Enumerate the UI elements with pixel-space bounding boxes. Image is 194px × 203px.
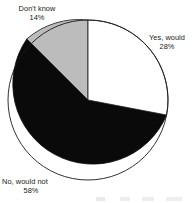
- pie-label-dont-know-percent: 14%: [6, 13, 68, 22]
- pie-label-dont-know-category: Don't know: [6, 4, 68, 13]
- pie-label-no-would-not: No, would not 58%: [2, 177, 80, 196]
- pie-label-dont-know: Don't know 14%: [6, 4, 68, 23]
- pie-chart-figure: Don't know 14% Yes, would 28% No, would …: [0, 0, 194, 203]
- pie-label-yes-would: Yes, would 28%: [143, 33, 191, 52]
- clipped-caption-remnant: [96, 197, 192, 201]
- pie-chart-graphic: [0, 0, 194, 203]
- pie-label-no-would-not-percent: 58%: [2, 186, 60, 195]
- pie-label-yes-would-percent: 28%: [143, 42, 191, 51]
- pie-label-no-would-not-category: No, would not: [2, 177, 80, 186]
- pie-label-yes-would-category: Yes, would: [143, 33, 191, 42]
